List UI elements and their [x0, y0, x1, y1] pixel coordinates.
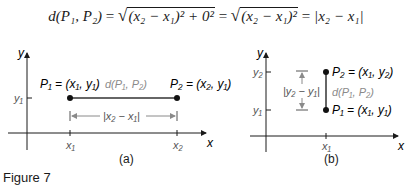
- x-axis-label: x: [206, 136, 214, 150]
- y1-tick-label: y₁: [13, 92, 24, 104]
- distance-label: d(P₁, P₂): [105, 78, 147, 90]
- dimension-label: |x₂ − x₁|: [103, 110, 140, 122]
- p2-label: P₂ = (x₁, y₂): [332, 65, 393, 79]
- p2-label: P₂ = (x₂, y₁): [170, 77, 231, 91]
- y-axis-label: y: [256, 46, 264, 60]
- y1-tick-label: y₁: [252, 104, 263, 116]
- p1-label: P₁ = (x₁, y₁): [40, 77, 100, 91]
- point-p1: [67, 95, 73, 101]
- figure-diagrams: y x y₁ x₁ x₂ P₁ = (x₁, y₁) P₂ = (x₂, y₁)…: [0, 0, 412, 191]
- dimension-label: |y₂ − y₁|: [283, 85, 320, 97]
- caption-a: (a): [119, 152, 134, 166]
- x1-tick-label: x₁: [65, 139, 76, 151]
- y2-tick-label: y₂: [252, 66, 264, 78]
- point-p2: [323, 69, 329, 75]
- distance-label: d(P₁, P₂): [332, 86, 374, 98]
- y-axis-label: y: [17, 46, 25, 60]
- point-p1: [323, 107, 329, 113]
- figure-label: Figure 7: [3, 170, 51, 185]
- p1-label: P₁ = (x₁, y₁): [332, 103, 392, 117]
- caption-b: (b): [324, 152, 339, 166]
- x-axis-label: x: [397, 139, 405, 153]
- x2-tick-label: x₂: [172, 139, 184, 151]
- panel-a: y x y₁ x₁ x₂ P₁ = (x₁, y₁) P₂ = (x₂, y₁)…: [8, 46, 231, 151]
- x1-tick-label: x₁: [321, 140, 332, 152]
- point-p2: [174, 95, 180, 101]
- panel-b: y x y₂ y₁ x₁ P₂ = (x₁, y₂) P₁ = (x₁, y₁)…: [250, 46, 405, 153]
